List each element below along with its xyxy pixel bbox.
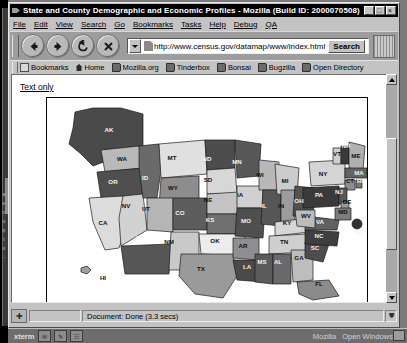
bookmark-label: Tinderbox: [177, 63, 210, 72]
lock-icon[interactable]: ⛊: [385, 310, 397, 322]
window-controls: _ □ ×: [364, 6, 396, 15]
menu-item-file[interactable]: File: [13, 20, 26, 29]
map-label-wv: WV: [301, 212, 312, 219]
background-window-strip: aen opt s-: [0, 0, 8, 343]
status-bar: ✚ Document: Done (3.3 secs) ⛊: [11, 309, 397, 323]
window-icon[interactable]: ☷: [70, 330, 83, 342]
map-label-sc: SC: [311, 244, 320, 251]
map-state-tx[interactable]: [179, 254, 237, 298]
back-arrow-icon: [27, 40, 40, 53]
back-button[interactable]: [21, 34, 45, 58]
map-label-ma: MA: [354, 169, 364, 176]
bookmark-icon: [112, 63, 121, 72]
menu-item-debug[interactable]: Debug: [234, 20, 258, 29]
personal-toolbar: Bookmarks Home Mozilla.org Tinderbox Bon…: [10, 60, 398, 74]
personal-toolbar-grippy[interactable]: [12, 62, 18, 73]
menu-item-help[interactable]: Help: [209, 20, 225, 29]
stop-button[interactable]: [96, 34, 120, 58]
folder-icon: [20, 63, 29, 72]
map-label-ak: AK: [105, 126, 114, 133]
map-state-hi[interactable]: [81, 266, 91, 274]
map-label-ok: OK: [210, 237, 220, 244]
background-window-text: aen opt s-: [0, 190, 8, 310]
chevron-down-icon: [389, 296, 395, 300]
map-state-az[interactable]: [121, 244, 171, 274]
scrollbar-thumb[interactable]: [386, 138, 397, 250]
scroll-up-button[interactable]: [386, 74, 397, 85]
maximize-button[interactable]: □: [375, 6, 385, 15]
bookmark-label: Bookmarks: [31, 63, 69, 72]
map-label-mt: MT: [168, 154, 177, 161]
map-label-sd: SD: [204, 176, 213, 183]
bookmark-home[interactable]: Home: [76, 63, 105, 72]
taskbar-start-button[interactable]: xterm: [10, 332, 38, 341]
forward-arrow-icon: [52, 40, 65, 53]
menu-bar: File Edit View Search Go Bookmarks Tasks…: [10, 18, 398, 30]
taskbar-tray-button[interactable]: [393, 330, 405, 341]
map-label-nj: NJ: [335, 188, 343, 195]
map-state-id[interactable]: [139, 144, 161, 198]
reload-arrow-icon: [77, 40, 90, 53]
minimize-button[interactable]: _: [364, 6, 374, 15]
navigation-toolbar: http://www.census.gov/datamap/www/index.…: [10, 31, 398, 60]
reload-button[interactable]: [71, 34, 95, 58]
menu-item-view[interactable]: View: [56, 20, 73, 29]
map-label-ky: KY: [283, 219, 292, 226]
taskbar: xterm ✉ ✎ ☷ Mozilla Open Windows: [8, 328, 407, 343]
menu-item-tasks[interactable]: Tasks: [181, 20, 201, 29]
menu-item-search[interactable]: Search: [81, 20, 106, 29]
taskbar-task-mozilla[interactable]: Mozilla: [313, 332, 342, 341]
search-button[interactable]: Search: [328, 40, 365, 53]
text-only-link[interactable]: Text only: [20, 82, 54, 92]
map-label-wi: WI: [256, 171, 264, 178]
content-scrollbar[interactable]: [386, 74, 397, 303]
map-label-mi: MI: [282, 177, 289, 184]
bookmark-label: Bugzilla: [269, 63, 295, 72]
menu-item-go[interactable]: Go: [114, 20, 125, 29]
map-label-ga: GA: [294, 254, 304, 261]
menu-item-qa[interactable]: QA: [265, 20, 277, 29]
url-input[interactable]: http://www.census.gov/datamap/www/index.…: [154, 42, 328, 51]
scroll-down-button[interactable]: [386, 292, 397, 303]
bookmark-tinderbox[interactable]: Tinderbox: [166, 63, 210, 72]
status-component-bar-icon[interactable]: ✚: [11, 309, 27, 323]
bookmark-open-directory[interactable]: Open Directory: [302, 63, 363, 72]
menu-item-edit[interactable]: Edit: [34, 20, 48, 29]
bookmark-label: Mozilla.org: [123, 63, 159, 72]
map-label-nd: ND: [203, 155, 212, 162]
map-label-az: AZ: [135, 234, 143, 241]
status-text: Document: Done (3.3 secs): [82, 310, 384, 322]
url-bar[interactable]: http://www.census.gov/datamap/www/index.…: [127, 38, 369, 54]
map-label-ny: NY: [319, 170, 328, 177]
menu-item-bookmarks[interactable]: Bookmarks: [133, 20, 173, 29]
bookmark-bonsai[interactable]: Bonsai: [217, 63, 251, 72]
mozilla-throbber-icon[interactable]: [373, 35, 395, 58]
map-label-ia: IA: [237, 191, 244, 198]
map-label-ut: UT: [142, 205, 150, 212]
us-map-svg[interactable]: AKHIWAORCANVIDMTWYUTAZNMCONDSDNEKSOKTXMN…: [47, 98, 367, 303]
map-state-ut[interactable]: [147, 198, 173, 232]
bookmark-icon: [217, 63, 226, 72]
url-dropdown-button[interactable]: [129, 39, 141, 53]
mail-icon[interactable]: ✉: [38, 330, 51, 342]
map-label-in: IN: [278, 202, 285, 209]
pencil-icon[interactable]: ✎: [54, 330, 67, 342]
map-state-mt[interactable]: [159, 140, 207, 178]
bookmark-label: Bonsai: [228, 63, 251, 72]
map-label-ar: AR: [239, 242, 248, 249]
title-bar[interactable]: State and County Demographic and Economi…: [10, 4, 398, 17]
close-button[interactable]: ×: [386, 6, 396, 15]
us-map-image[interactable]: AKHIWAORCANVIDMTWYUTAZNMCONDSDNEKSOKTXMN…: [46, 97, 368, 303]
bookmark-mozilla-org[interactable]: Mozilla.org: [112, 63, 159, 72]
forward-button[interactable]: [46, 34, 70, 58]
map-label-tn: TN: [280, 238, 289, 245]
bookmark-bugzilla[interactable]: Bugzilla: [258, 63, 295, 72]
bookmark-bookmarks[interactable]: Bookmarks: [20, 63, 69, 72]
toolbar-grippy[interactable]: [12, 35, 19, 57]
bookmark-icon: [302, 63, 311, 72]
map-label-ne: NE: [204, 196, 213, 203]
map-label-ct: CT: [346, 177, 354, 184]
map-label-pa: PA: [315, 191, 324, 198]
map-state-or[interactable]: [97, 168, 145, 198]
map-label-de: DE: [343, 198, 352, 205]
